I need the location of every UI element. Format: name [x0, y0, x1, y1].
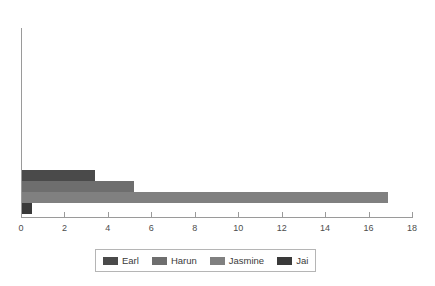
x-tick-mark: [325, 212, 326, 218]
legend-label: Jasmine: [229, 255, 264, 266]
x-tick-mark: [195, 212, 196, 218]
x-tick-label: 14: [313, 222, 337, 234]
bar-jasmine: [22, 192, 388, 203]
bar-jai: [22, 203, 32, 214]
legend-swatch-icon: [210, 257, 225, 265]
x-tick-label: 0: [9, 222, 33, 234]
legend-label: Jai: [296, 255, 308, 266]
x-tick-mark: [238, 212, 239, 218]
x-tick-mark: [64, 212, 65, 218]
x-tick-label: 10: [226, 222, 250, 234]
x-tick-label: 2: [52, 222, 76, 234]
legend-item-jasmine[interactable]: Jasmine: [210, 255, 264, 266]
plot-area: 024681012141618: [0, 0, 435, 240]
legend-item-jai[interactable]: Jai: [277, 255, 308, 266]
x-axis-line: [21, 217, 413, 218]
legend-label: Harun: [171, 255, 197, 266]
x-tick-mark: [151, 212, 152, 218]
bar-chart: 024681012141618 EarlHarunJasmineJai: [0, 0, 435, 286]
chart-legend: EarlHarunJasmineJai: [95, 249, 316, 272]
x-tick-mark: [369, 212, 370, 218]
bar-harun: [22, 181, 134, 192]
bar-earl: [22, 170, 95, 181]
x-tick-mark: [412, 212, 413, 218]
legend-item-harun[interactable]: Harun: [152, 255, 197, 266]
x-tick-label: 4: [96, 222, 120, 234]
x-tick-label: 12: [270, 222, 294, 234]
legend-item-earl[interactable]: Earl: [103, 255, 139, 266]
x-tick-label: 16: [357, 222, 381, 234]
legend-swatch-icon: [152, 257, 167, 265]
x-tick-mark: [108, 212, 109, 218]
x-tick-label: 18: [400, 222, 424, 234]
legend-label: Earl: [122, 255, 139, 266]
legend-swatch-icon: [277, 257, 292, 265]
x-tick-label: 6: [139, 222, 163, 234]
x-tick-mark: [282, 212, 283, 218]
x-tick-label: 8: [183, 222, 207, 234]
legend-swatch-icon: [103, 257, 118, 265]
